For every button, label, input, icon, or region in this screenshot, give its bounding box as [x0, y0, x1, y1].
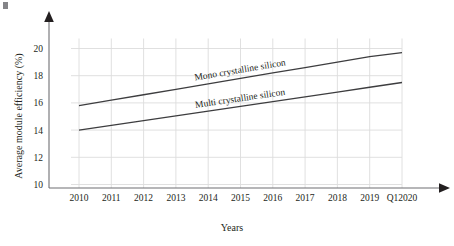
x-tick-label: 2012 [134, 193, 153, 203]
x-tick-label: 2019 [360, 193, 379, 203]
grid-lines [71, 39, 402, 189]
x-tick-label: Q12020 [387, 193, 418, 203]
x-tick-label: 2015 [231, 193, 250, 203]
x-tick-label: 2016 [263, 193, 282, 203]
y-tick-label: 14 [34, 126, 44, 136]
y-axis-arrow-icon [44, 11, 54, 22]
y-tick-label: 12 [34, 153, 44, 163]
x-axis-title: Years [221, 222, 243, 233]
x-tick-label: 2010 [70, 193, 89, 203]
y-axis-title: Average module efficiency (%) [13, 53, 25, 178]
y-tick-label: 18 [34, 71, 44, 81]
chart-figure: 101214161820 201020112012201320142015201… [0, 0, 454, 246]
x-tick-label: 2013 [166, 193, 185, 203]
line-chart: 101214161820 201020112012201320142015201… [0, 0, 454, 246]
x-tick-label: 2011 [102, 193, 121, 203]
x-tick-label: 2014 [199, 193, 218, 203]
y-tick-label: 16 [34, 98, 44, 108]
x-tick-label: 2018 [328, 193, 347, 203]
y-tick-label: 10 [34, 180, 44, 190]
x-tick-label: 2017 [296, 193, 315, 203]
y-tick-labels: 101214161820 [34, 44, 44, 190]
x-axis-arrow-icon [439, 183, 450, 193]
y-tick-label: 20 [34, 44, 44, 54]
x-tick-labels: 2010201120122013201420152016201720182019… [70, 193, 418, 203]
